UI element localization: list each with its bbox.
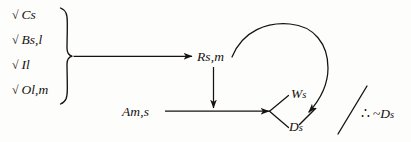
premise-label-3: Il (22, 57, 30, 72)
diagram-vector-layer (0, 0, 411, 142)
checkmark-icon: √ (12, 34, 19, 46)
node-ws-subscript: s (302, 89, 306, 100)
node-ds: Ds (289, 120, 303, 134)
node-ws: Ws (291, 87, 307, 101)
node-ams: Am,s (122, 105, 149, 119)
premise-row-1: √Cs (12, 8, 36, 22)
therefore-icon: ∴ (361, 106, 370, 121)
curved-arrow-rsm-to-ds (232, 24, 328, 112)
checkmark-icon: √ (12, 84, 19, 96)
node-ds-base: D (289, 119, 299, 134)
fork-branches (270, 96, 289, 128)
premise-row-2: √Bs,l (12, 33, 42, 47)
conclusion-term: D (380, 106, 390, 121)
premise-row-3: √Il (12, 58, 30, 72)
premise-label-4: Ol,m (22, 82, 49, 97)
node-ws-base: W (291, 86, 302, 101)
checkmark-icon: √ (12, 9, 19, 21)
node-rsm: Rs,m (197, 50, 224, 64)
premise-brace-icon (61, 8, 73, 104)
diagram-canvas: √Cs √Bs,l √Il √Ol,m Rs,m Am,s Ws Ds ∴~Ds (0, 0, 411, 142)
node-ds-subscript: s (299, 122, 303, 133)
conclusion-term-subscript: s (390, 109, 394, 120)
premise-row-4: √Ol,m (12, 83, 48, 97)
checkmark-icon: √ (12, 59, 19, 71)
conclusion: ∴~Ds (361, 105, 394, 122)
premise-label-2: Bs,l (22, 32, 43, 47)
premise-label-1: Cs (22, 7, 36, 22)
